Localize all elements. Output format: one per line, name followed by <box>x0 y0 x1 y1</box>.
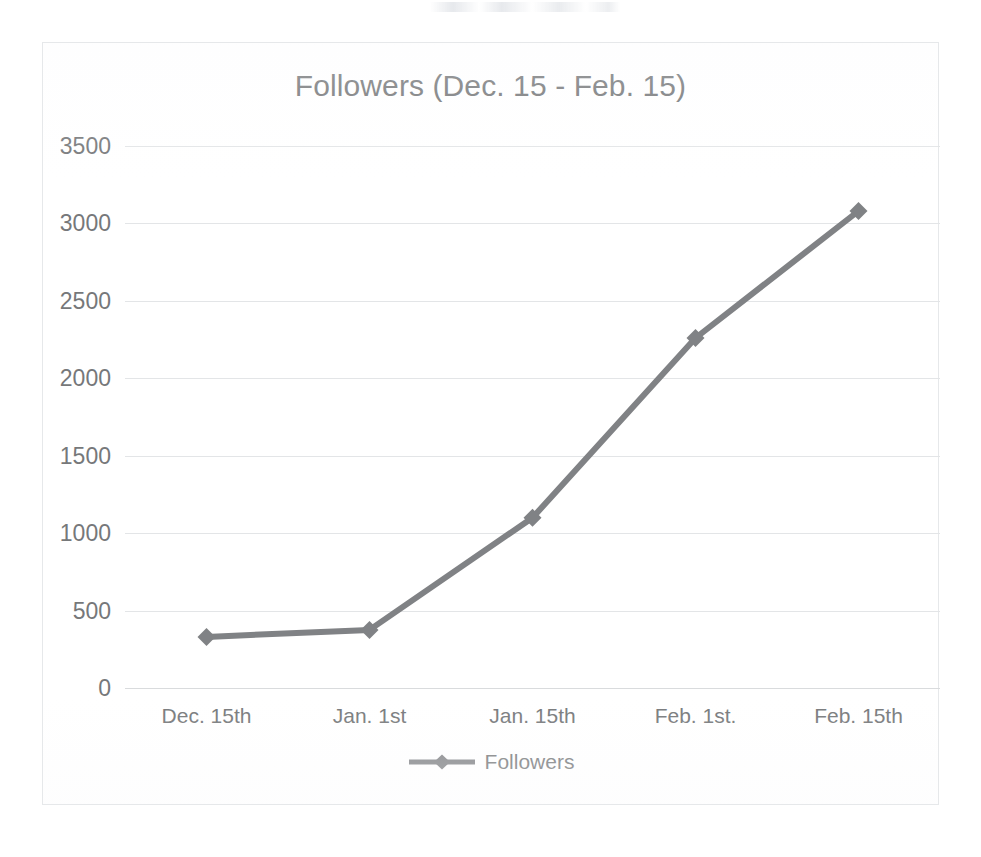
chart-legend: Followers <box>43 750 938 774</box>
y-tick-label-2000: 2000 <box>60 365 111 392</box>
series-line-followers <box>207 211 859 637</box>
legend-marker-icon <box>407 753 477 771</box>
x-tick-label-0: Dec. 15th <box>162 704 252 728</box>
x-tick-label-2: Jan. 15th <box>489 704 575 728</box>
chart-title: Followers (Dec. 15 - Feb. 15) <box>43 69 938 103</box>
y-tick-label-500: 500 <box>73 597 111 624</box>
y-tick-label-1000: 1000 <box>60 520 111 547</box>
x-tick-label-4: Feb. 15th <box>814 704 903 728</box>
x-tick-label-1: Jan. 1st <box>333 704 407 728</box>
plot-area: 0500100015002000250030003500 Dec. 15thJa… <box>125 146 940 688</box>
legend-label-followers: Followers <box>485 750 575 774</box>
x-axis-tick-labels: Dec. 15thJan. 1stJan. 15thFeb. 1st.Feb. … <box>125 688 940 738</box>
series-followers <box>125 146 940 688</box>
y-tick-label-0: 0 <box>98 675 111 702</box>
chart-frame: Followers (Dec. 15 - Feb. 15) 0500100015… <box>42 42 939 805</box>
x-tick-label-3: Feb. 1st. <box>655 704 737 728</box>
scan-artifact <box>430 2 620 12</box>
y-tick-label-3500: 3500 <box>60 133 111 160</box>
y-tick-label-3000: 3000 <box>60 210 111 237</box>
y-tick-label-2500: 2500 <box>60 287 111 314</box>
y-tick-label-1500: 1500 <box>60 442 111 469</box>
data-point-0 <box>198 628 216 646</box>
